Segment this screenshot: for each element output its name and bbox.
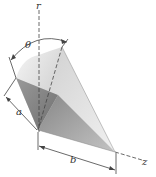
z-axis-line	[115, 152, 142, 160]
a-label: a	[16, 106, 22, 117]
b-dimension-line	[39, 146, 115, 170]
b-arrow-right	[109, 166, 115, 170]
b-arrow-left	[39, 146, 45, 150]
z-axis-label: z	[141, 156, 148, 167]
b-label: b	[70, 154, 76, 165]
cone-diagram: r θ a b z	[0, 0, 156, 177]
r-axis-label: r	[36, 0, 42, 11]
theta-extension-left	[9, 57, 16, 78]
theta-label: θ	[25, 39, 31, 50]
a-extension-top	[4, 78, 16, 96]
